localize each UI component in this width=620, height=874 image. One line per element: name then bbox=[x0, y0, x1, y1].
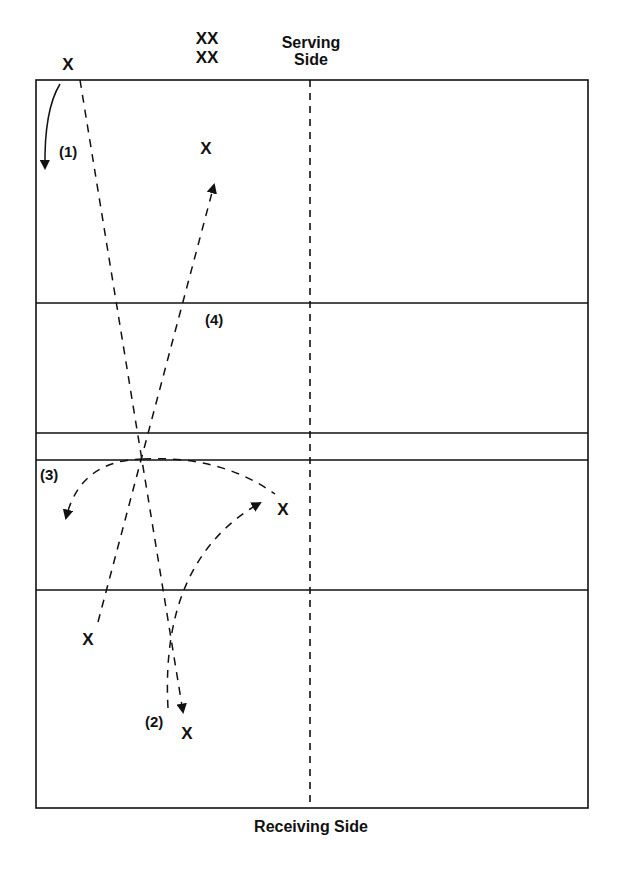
path-3-curve-right bbox=[143, 459, 275, 494]
path-server-to-bottom bbox=[80, 80, 183, 712]
path-1-arrow bbox=[45, 84, 60, 168]
path-3-arrow-left bbox=[66, 459, 143, 518]
player-waiting-row2: XX bbox=[196, 48, 219, 67]
serving-side-label-line1: Serving bbox=[282, 34, 341, 51]
step-3-label: (3) bbox=[40, 466, 58, 483]
player-top: X bbox=[200, 139, 212, 158]
step-2-label: (2) bbox=[145, 713, 163, 730]
step-1-label: (1) bbox=[59, 143, 77, 160]
player-waiting-row1: XX bbox=[196, 29, 219, 48]
serving-side-label-line2: Side bbox=[294, 51, 328, 68]
step-4-label: (4) bbox=[205, 311, 223, 328]
path-2-arrow bbox=[167, 503, 260, 708]
path-4-arrow bbox=[98, 185, 214, 622]
player-server: X bbox=[62, 55, 74, 74]
player-bottom: X bbox=[181, 724, 193, 743]
court-boundary bbox=[36, 80, 588, 808]
player-mid-right: X bbox=[277, 500, 289, 519]
receiving-side-label: Receiving Side bbox=[254, 818, 368, 835]
court-diagram: Serving Side Receiving Side (1) (4) (3) … bbox=[0, 0, 620, 874]
player-bottom-left: X bbox=[82, 630, 94, 649]
